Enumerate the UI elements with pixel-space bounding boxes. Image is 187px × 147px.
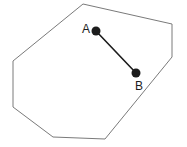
point-b-label: B <box>135 79 143 93</box>
figure-container: A B <box>0 0 187 147</box>
point-a-label: A <box>82 22 90 36</box>
geometry-diagram: A B <box>0 0 187 147</box>
point-b-dot <box>132 69 141 78</box>
point-a-dot <box>92 27 101 36</box>
polygon-heptagon <box>13 4 172 139</box>
